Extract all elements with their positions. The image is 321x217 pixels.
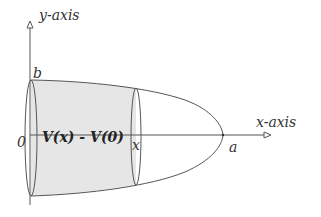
point-a-marker [222,134,224,136]
y-axis-label: y-axis [38,7,80,23]
volume-label: V(x) - V(0) [42,129,124,145]
x-axis-label: x-axis [256,114,296,130]
label-b: b [33,65,42,81]
label-origin: 0 [17,134,26,150]
solid-of-revolution-diagram: y-axis x-axis b 0 x a V(x) - V(0) [0,0,321,217]
label-a: a [229,139,237,155]
label-x: x [132,137,140,153]
y-axis-arrow-icon [27,21,33,28]
x-axis-arrow-icon [264,132,271,138]
